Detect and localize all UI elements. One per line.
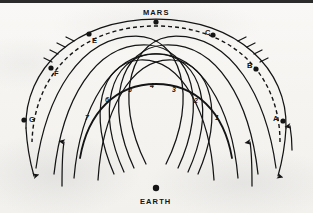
point-label-c: C	[205, 29, 211, 37]
point-label-a: A	[273, 115, 279, 123]
arc-number-4: 4	[150, 82, 154, 89]
point-label-f: F	[54, 70, 59, 78]
mars-dot	[153, 19, 158, 24]
earth-dot	[153, 185, 159, 191]
arc-number-5: 5	[128, 86, 132, 93]
mars-label: MARS	[143, 9, 169, 17]
arc-number-1: 1	[215, 114, 219, 121]
point-label-g: G	[29, 116, 35, 124]
arc-number-7: 7	[85, 114, 89, 121]
arc-number-3: 3	[172, 86, 176, 93]
point-label-b: B	[247, 62, 253, 70]
mars-earth-transfer-orbit-figure: MARS EARTH A B C E F G 1 2 3 4 5 6 7	[0, 0, 313, 213]
earth-label: EARTH	[140, 198, 171, 206]
arc-number-6: 6	[105, 96, 109, 103]
arc-number-2: 2	[194, 97, 198, 104]
orbit-arcs-drawing	[0, 0, 313, 213]
point-label-e: E	[92, 37, 97, 45]
